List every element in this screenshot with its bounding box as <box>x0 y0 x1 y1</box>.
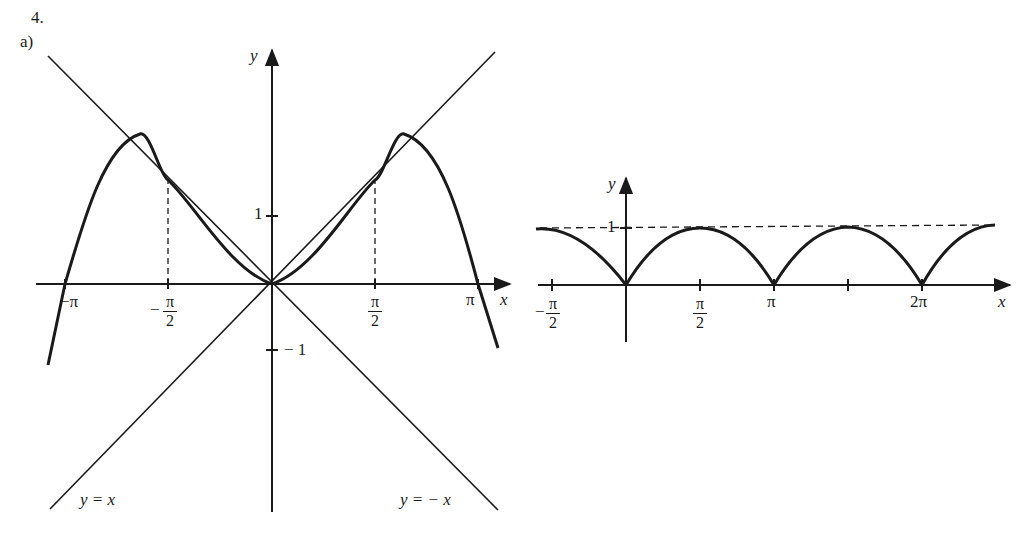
right-x-axis-label: x <box>998 292 1006 312</box>
frac-num: π <box>371 293 379 310</box>
right-tick-label-half-pi: π2 <box>693 296 707 331</box>
frac-den: 2 <box>696 314 704 331</box>
frac-den: 2 <box>549 314 557 331</box>
charts-canvas <box>0 0 1030 537</box>
frac-num: π <box>696 295 704 312</box>
annotation-y-eq-x: y = x <box>80 490 115 510</box>
frac-den: 2 <box>166 312 174 329</box>
frac-den: 2 <box>371 312 379 329</box>
right-tick-label-minus: − <box>535 302 545 322</box>
frac-num: π <box>166 293 174 310</box>
right-tick-label-two-pi: 2π <box>910 292 927 312</box>
tick-label-one: 1 <box>254 204 263 224</box>
left-x-axis-label: x <box>500 290 508 310</box>
left-y-axis-label: y <box>250 46 258 66</box>
annotation-y-eq-neg-x: y = − x <box>400 490 451 510</box>
right-chart <box>536 178 1010 342</box>
right-y-axis-label: y <box>608 174 616 194</box>
tick-label-neg-half-pi: π2 <box>163 294 177 329</box>
tick-label-pi: π <box>466 290 475 310</box>
tick-label-minus: − <box>150 300 160 320</box>
right-tick-label-pi: π <box>767 292 776 312</box>
right-tick-label-neg-half-pi: π2 <box>546 296 560 331</box>
left-chart <box>36 50 510 512</box>
tick-label-half-pi: π2 <box>368 294 382 329</box>
right-tick-label-one: 1 <box>607 217 616 237</box>
frac-num: π <box>549 295 557 312</box>
curve-abs-sin-x <box>536 225 995 285</box>
tick-label-neg-one: − 1 <box>284 340 306 360</box>
tick-label-neg-pi: −π <box>60 292 78 312</box>
